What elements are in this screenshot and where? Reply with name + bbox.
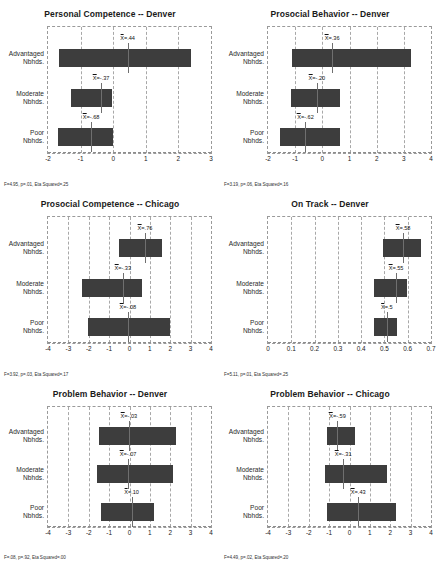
interval-bar <box>71 89 112 107</box>
mean-value-label: X=-.37 <box>93 75 110 81</box>
x-axis-ticks: -2-101234 <box>268 153 431 167</box>
x-tick-label: 2 <box>388 529 392 536</box>
panel-title: On Track -- Denver <box>220 199 440 209</box>
category-label-line2: Nbhds. <box>220 512 264 520</box>
x-tick-label: 0 <box>128 345 132 352</box>
x-bar-symbol: X <box>381 304 385 310</box>
x-tick-label: -1 <box>106 529 112 536</box>
gridline <box>170 217 171 343</box>
x-tick-label: 1 <box>148 529 152 536</box>
category-label-line1: Moderate <box>220 90 264 98</box>
category-label: ModerateNbhds. <box>0 280 44 295</box>
mean-value-label: X=-.20 <box>309 75 326 81</box>
x-tick-label: 0 <box>111 155 115 162</box>
chart-panel: Prosocial Competence -- ChicagoAdvantage… <box>0 190 220 380</box>
statistics-footnote: F=.08, p=.92, Eta Squared=.00 <box>4 555 66 560</box>
category-label: AdvantagedNbhds. <box>220 428 264 443</box>
gridline <box>338 217 339 343</box>
x-tick-label: 2 <box>168 345 172 352</box>
x-tick-label: 2 <box>168 529 172 536</box>
interval-bar <box>325 465 386 483</box>
chart-panel: On Track -- DenverAdvantagedNbhds.X=.58M… <box>220 190 440 380</box>
mean-value-text: =-.62 <box>301 114 314 120</box>
mean-value-text: =.55 <box>392 265 403 271</box>
gridline <box>291 217 292 343</box>
mean-value-text: =-.31 <box>339 451 352 457</box>
statistics-footnote: F=4.95, p=.01, Eta Squared=.25 <box>4 182 68 187</box>
x-tick-label: -1 <box>78 155 84 162</box>
category-label-line1: Moderate <box>0 90 44 98</box>
category-label-line2: Nbhds. <box>0 137 44 145</box>
mean-value-label: X=.10 <box>124 489 139 495</box>
x-tick-label: 0.5 <box>380 345 389 352</box>
x-tick-label: 4 <box>209 345 213 352</box>
x-tick-label: 0 <box>128 529 132 536</box>
mean-marker <box>128 459 129 489</box>
plot-area: AdvantagedNbhds.X=-.59ModerateNbhds.X=-.… <box>267 406 432 528</box>
interval-bar <box>58 128 113 146</box>
category-label-line1: Advantaged <box>0 428 44 436</box>
panel-title: Personal Competence -- Denver <box>0 9 220 19</box>
category-label-line1: Poor <box>220 504 264 512</box>
statistics-footnote: F=4.49, p=.02, Eta Squared=.20 <box>224 555 288 560</box>
gridline <box>191 217 192 343</box>
x-bar-symbol: X <box>114 265 118 271</box>
gridline <box>309 407 310 527</box>
mean-value-text: =-.08 <box>123 304 136 310</box>
category-label-line1: Moderate <box>0 280 44 288</box>
x-tick-label: -4 <box>45 345 51 352</box>
x-tick-label: 4 <box>429 155 433 162</box>
category-label: ModerateNbhds. <box>220 280 264 295</box>
chart-panel: Problem Behavior -- ChicagoAdvantagedNbh… <box>220 380 440 563</box>
gridline <box>408 217 409 343</box>
panel-title: Problem Behavior -- Denver <box>0 389 220 399</box>
mean-value-label: X=-.07 <box>120 451 137 457</box>
category-label-line2: Nbhds. <box>0 248 44 256</box>
gridline <box>350 27 351 153</box>
interval-bar <box>327 427 355 445</box>
category-label-line2: Nbhds. <box>0 474 44 482</box>
mean-value-text: =-.20 <box>312 75 325 81</box>
mean-marker <box>91 122 92 152</box>
mean-value-text: =-.59 <box>333 413 346 419</box>
category-label-line1: Poor <box>0 504 44 512</box>
chart-panel: Personal Competence -- DenverAdvantagedN… <box>0 0 220 190</box>
interval-bar <box>292 49 412 67</box>
mean-marker <box>403 233 404 263</box>
x-bar-symbol: X <box>121 413 125 419</box>
mean-marker <box>101 83 102 113</box>
interval-bar <box>374 279 407 297</box>
interval-bar <box>82 279 142 297</box>
mean-value-label: X=.55 <box>389 265 404 271</box>
x-bar-symbol: X <box>329 413 333 419</box>
x-axis-ticks: -4-3-2-101234 <box>268 527 431 541</box>
category-label-line2: Nbhds. <box>220 58 264 66</box>
x-bar-symbol: X <box>389 265 393 271</box>
mean-marker <box>128 312 129 342</box>
x-bar-symbol: X <box>120 451 124 457</box>
x-tick-label: 3 <box>409 529 413 536</box>
mean-value-label: X=-.59 <box>329 413 346 419</box>
x-bar-symbol: X <box>396 225 400 231</box>
x-tick-label: -3 <box>286 529 292 536</box>
mean-value-label: X=-.31 <box>335 451 352 457</box>
x-tick-label: -2 <box>45 155 51 162</box>
mean-value-label: X=-.03 <box>121 413 138 419</box>
panel-title: Problem Behavior -- Chicago <box>220 389 440 399</box>
mean-value-text: =-.07 <box>123 451 136 457</box>
mean-value-text: =.58 <box>399 225 410 231</box>
x-tick-label: 0 <box>321 155 325 162</box>
x-tick-label: 1 <box>368 529 372 536</box>
x-tick-label: -2 <box>306 529 312 536</box>
category-label: AdvantagedNbhds. <box>0 50 44 65</box>
x-tick-label: -2 <box>265 155 271 162</box>
mean-value-text: =-.33 <box>118 265 131 271</box>
x-tick-label: 2 <box>375 155 379 162</box>
x-tick-label: -1 <box>106 345 112 352</box>
x-bar-symbol: X <box>351 489 355 495</box>
interval-bar <box>99 427 176 445</box>
interval-bar <box>97 465 173 483</box>
category-label: PoorNbhds. <box>220 129 264 144</box>
category-label-line2: Nbhds. <box>0 512 44 520</box>
mean-marker <box>317 83 318 113</box>
